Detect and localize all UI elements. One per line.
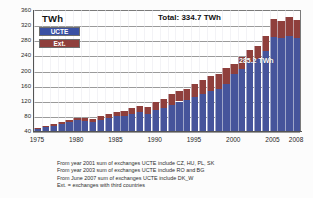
bar-segment-ext <box>105 114 112 118</box>
bar <box>199 10 206 131</box>
bar <box>215 10 222 131</box>
y-axis-labels: 3603202802402001601208040 <box>5 10 31 131</box>
bar-segment-ext <box>183 89 190 100</box>
bar-divider <box>144 10 145 131</box>
bar <box>270 10 277 131</box>
bar <box>254 10 261 131</box>
bar-divider <box>113 10 114 131</box>
data-value-annotation: 285.2 TWh <box>239 57 274 64</box>
bar <box>136 10 143 131</box>
bar <box>230 10 237 131</box>
bar-segment-ucte <box>168 105 175 131</box>
y-tick-label: 200 <box>9 68 31 74</box>
bar-divider <box>136 10 137 131</box>
bar-segment-ucte <box>97 120 104 131</box>
bar-segment-ucte <box>58 124 65 131</box>
x-tick-label: 1990 <box>147 136 161 143</box>
bar <box>168 10 175 131</box>
bar-segment-ext <box>270 19 277 37</box>
bar-segment-ucte <box>254 59 261 131</box>
bar-divider <box>207 10 208 131</box>
bar-segment-ext <box>113 112 120 117</box>
x-tick-label: 1985 <box>108 136 122 143</box>
bar-divider <box>175 10 176 131</box>
y-tick-label: 120 <box>9 98 31 104</box>
bar-segment-ucte <box>113 116 120 131</box>
bar-segment-ext <box>222 68 229 85</box>
x-axis-line <box>33 131 302 132</box>
legend-label-ext: Ext. <box>54 40 66 47</box>
bar-divider <box>105 10 106 131</box>
bar-divider <box>222 10 223 131</box>
bar <box>183 10 190 131</box>
bar-divider <box>230 10 231 131</box>
footnote-4: Ext. = exchanges with third countries <box>57 182 307 189</box>
bar-segment-ext <box>50 124 57 126</box>
x-tick-label: 1975 <box>30 136 44 143</box>
footnote-2: From year 2003 sum of exchanges UCTE inc… <box>57 167 307 174</box>
bar-segment-ucte <box>136 112 143 131</box>
bar-segment-ext <box>136 106 143 113</box>
legend-item-ucte[interactable]: UCTE <box>39 27 80 36</box>
x-tick-label: 2008 <box>289 136 303 143</box>
bar-segment-ucte <box>215 89 222 131</box>
bar-segment-ext <box>128 108 135 114</box>
bar-segment-ext <box>152 102 159 110</box>
bar-segment-ucte <box>65 122 72 131</box>
bar-segment-ext <box>199 80 206 94</box>
bar-divider <box>215 10 216 131</box>
bar <box>152 10 159 131</box>
bar <box>113 10 120 131</box>
bar-segment-ucte <box>42 127 49 131</box>
bar-divider <box>160 10 161 131</box>
bar-segment-ucte <box>222 84 229 131</box>
bar-divider <box>120 10 121 131</box>
bar-segment-ucte <box>128 114 135 131</box>
bar <box>89 10 96 131</box>
bar <box>238 10 245 131</box>
bar <box>120 10 127 131</box>
bar <box>144 10 151 131</box>
x-tick-label: 2000 <box>226 136 240 143</box>
bar-segment-ucte <box>238 69 245 131</box>
bar <box>97 10 104 131</box>
bar-segment-ucte <box>277 38 284 131</box>
bar-segment-ext <box>277 21 284 38</box>
bar-segment-ext <box>42 126 49 127</box>
bar-segment-ucte <box>207 91 214 131</box>
bar-segment-ext <box>58 122 65 124</box>
legend-label-ucte: UCTE <box>51 28 69 35</box>
bar <box>128 10 135 131</box>
x-tick-label: 2005 <box>265 136 279 143</box>
bar-segment-ext <box>168 94 175 104</box>
bar-segment-ucte <box>105 118 112 131</box>
chart-legend: UCTE Ext. <box>39 27 80 51</box>
bar <box>191 10 198 131</box>
bar-divider <box>285 10 286 131</box>
bar <box>160 10 167 131</box>
bar-segment-ext <box>89 119 96 122</box>
chart-page: 3603202802402001601208040 TWh Total: 334… <box>0 0 313 198</box>
bar-segment-ucte <box>199 94 206 131</box>
bar-divider <box>270 10 271 131</box>
bar-divider <box>199 10 200 131</box>
chart-total-label: Total: 334.7 TWh <box>158 13 221 22</box>
bar-segment-ext <box>230 64 237 75</box>
bar-segment-ucte <box>270 37 277 131</box>
bar-segment-ucte <box>34 129 41 131</box>
bar <box>81 10 88 131</box>
bar-segment-ext <box>73 118 80 121</box>
bar-segment-ucte <box>89 122 96 131</box>
bar-divider <box>293 10 294 131</box>
y-tick-label: 80 <box>9 113 31 119</box>
bar-divider <box>128 10 129 131</box>
legend-item-ext[interactable]: Ext. <box>39 39 80 48</box>
bar-segment-ext <box>175 91 182 102</box>
bar-segment-ucte <box>230 74 237 131</box>
bar <box>293 10 300 131</box>
bar-segment-ucte <box>175 102 182 132</box>
bar-segment-ext <box>293 20 300 39</box>
bar-segment-ucte <box>152 110 159 131</box>
y-tick-label: 240 <box>9 52 31 58</box>
footnotes: From year 2001 sum of exchanges UCTE inc… <box>57 160 307 190</box>
